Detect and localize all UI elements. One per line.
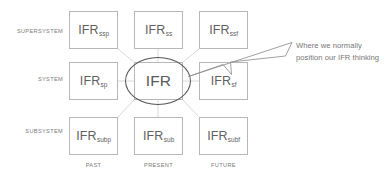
col-label-past: PAST <box>69 163 118 169</box>
row-label-system: SYSTEM <box>1 77 63 83</box>
callout-arrow-icon <box>0 0 390 177</box>
row-label-supersystem: SUPERSYSTEM <box>1 29 63 35</box>
row-label-subsystem: SUBSYSTEM <box>1 129 63 135</box>
connector-lines <box>0 0 390 177</box>
cell-subscript: ss <box>166 30 173 37</box>
cell-subscript: sub <box>164 136 174 143</box>
cell-label: IFRsf <box>211 75 237 88</box>
cell-system-past[interactable]: IFRsp <box>69 62 118 100</box>
cell-system-present[interactable]: IFR <box>134 62 183 100</box>
col-label-present: PRESENT <box>134 163 183 169</box>
cell-system-future[interactable]: IFRsf <box>199 62 248 100</box>
cell-label: IFRsub <box>143 130 174 143</box>
cell-subscript: subf <box>228 136 240 143</box>
cell-subsystem-present[interactable]: IFRsub <box>134 117 183 155</box>
annotation-text: Where we normally position our IFR think… <box>296 40 388 63</box>
cell-subscript: sf <box>231 81 236 88</box>
cell-subsystem-past[interactable]: IFRsubp <box>69 117 118 155</box>
cell-subscript: subp <box>97 136 111 143</box>
cell-label: IFRsubf <box>207 130 240 143</box>
cell-label: IFRss <box>145 24 172 37</box>
cell-label: IFRsubp <box>76 130 111 143</box>
cell-label: IFRssp <box>78 24 109 37</box>
col-label-future: FUTURE <box>199 163 248 169</box>
cell-subsystem-future[interactable]: IFRsubf <box>199 117 248 155</box>
cell-subscript: sp <box>101 81 108 88</box>
cell-label: IFR <box>146 73 171 89</box>
cell-subscript: ssp <box>99 30 109 37</box>
cell-label: IFRssf <box>209 24 238 37</box>
cell-supersystem-future[interactable]: IFRssf <box>199 11 248 49</box>
cell-supersystem-present[interactable]: IFRss <box>134 11 183 49</box>
cell-label: IFRsp <box>80 75 107 88</box>
cell-subscript: ssf <box>230 30 238 37</box>
cell-supersystem-past[interactable]: IFRssp <box>69 11 118 49</box>
nine-windows-diagram: SUPERSYSTEM SYSTEM SUBSYSTEM IFRssp IFRs… <box>0 0 390 177</box>
